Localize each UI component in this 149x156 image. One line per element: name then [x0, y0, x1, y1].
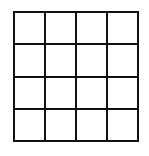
grid-cell	[45, 44, 76, 76]
grid-cell	[14, 12, 45, 44]
grid-cell	[107, 44, 138, 76]
grid-cell	[45, 77, 76, 109]
grid-cell	[14, 44, 45, 76]
grid-cell	[76, 109, 107, 141]
grid-cell	[76, 44, 107, 76]
grid-cell	[76, 12, 107, 44]
grid-cell	[45, 109, 76, 141]
grid-cell	[14, 77, 45, 109]
grid-cell	[107, 109, 138, 141]
grid-cell	[107, 12, 138, 44]
grid-cell	[14, 109, 45, 141]
grid-4x4	[13, 11, 139, 142]
grid-cell	[76, 77, 107, 109]
grid-cell	[45, 12, 76, 44]
grid-cell	[107, 77, 138, 109]
